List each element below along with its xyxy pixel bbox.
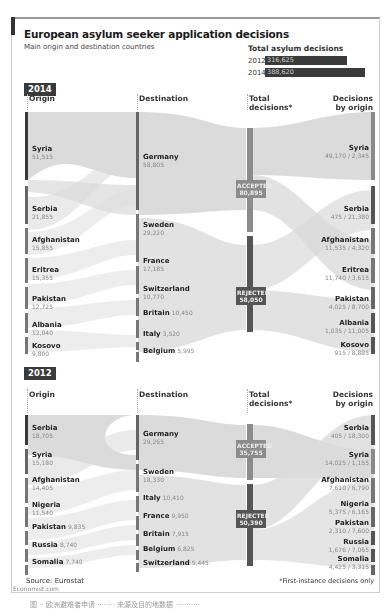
year-badge-2012: 2012	[24, 367, 56, 380]
col-total: Totaldecisions*	[249, 94, 292, 112]
origin-label: Eritrea15,355	[32, 266, 59, 282]
col-by-origin-l1: Decisions	[333, 94, 373, 103]
destination-label: France17,185	[143, 257, 169, 273]
divider	[247, 389, 248, 413]
origin-label: Russia 8,740	[32, 541, 77, 549]
origin-label: Serbia21,855	[32, 205, 57, 221]
by-origin-label: Serbia405 / 18,300	[331, 424, 369, 440]
rejected-badge: REJECTED50,390	[236, 510, 266, 528]
destination-label: Belgium 6,825	[143, 545, 194, 553]
col-total-l1: Total	[249, 390, 270, 399]
by-origin-label: Afghanistan11,535 / 4,320	[321, 236, 369, 252]
origin-label: Pakistan12,725	[32, 295, 66, 311]
divider	[27, 94, 28, 110]
origin-label: Afghanistan14,405	[32, 476, 80, 492]
by-origin-label: Syria14,025 / 1,155	[325, 451, 369, 467]
by-origin-label: Russia1,676 / 7,065	[329, 538, 369, 554]
by-origin-label: Kosovo915 / 8,885	[335, 341, 369, 357]
origin-label: Afghanistan15,855	[32, 236, 80, 252]
destination-label: Belgium 5,995	[143, 347, 194, 355]
origin-label: Kosovo9,800	[32, 342, 60, 358]
col-total-l2: decisions*	[249, 399, 292, 408]
by-origin-label: Nigeria5,375 / 6,165	[329, 500, 369, 516]
origin-label: Pakistan 9,835	[32, 523, 85, 531]
col-by-origin-l2: by origin	[335, 103, 373, 112]
origin-label: Albania12,040	[32, 321, 62, 337]
destination-label: Italy 3,520	[143, 330, 180, 338]
accepted-badge: ACCEPTED80,895	[236, 180, 266, 198]
col-origin: Origin	[29, 94, 55, 103]
col-origin: Origin	[29, 390, 55, 399]
divider	[137, 389, 138, 413]
rejected-badge: REJECTED58,050	[236, 287, 266, 305]
divider	[137, 94, 138, 110]
by-origin-label: Albania1,035 / 11,005	[325, 319, 369, 335]
credit: Economist.com	[13, 585, 59, 592]
divider	[27, 389, 28, 413]
origin-label: Serbia18,705	[32, 424, 57, 440]
by-origin-label: Afghanistan7,610 / 6,790	[321, 476, 369, 492]
destination-label: Italy 10,410	[143, 494, 184, 502]
destination-label: Switzerland 5,445	[143, 559, 209, 567]
destination-label: Britain 10,450	[143, 309, 193, 317]
divider	[247, 94, 248, 110]
figure-caption: 图 ·· 欧洲避难者申请 ········ 来源及目的地数据 ·········…	[30, 599, 200, 609]
col-total-l2: decisions*	[249, 103, 292, 112]
col-by-origin-l2: by origin	[335, 399, 373, 408]
by-origin-label: Pakistan2,310 / 7,600	[329, 519, 369, 535]
by-origin-label: Pakistan4,025 / 8,700	[329, 295, 369, 311]
col-destination: Destination	[139, 390, 188, 399]
by-origin-label: Somalia4,425 / 3,315	[329, 555, 369, 571]
origin-label: Nigeria11,540	[32, 501, 61, 517]
by-origin-label: Serbia475 / 21,380	[331, 205, 369, 221]
by-origin-label: Eritrea11,740 / 3,615	[325, 266, 369, 282]
destination-label: Britain 7,915	[143, 530, 189, 538]
by-origin-label: Syria49,170 / 2,345	[325, 144, 369, 160]
destination-label: Sweden18,330	[143, 468, 174, 484]
origin-label: Syria51,515	[32, 145, 53, 161]
origin-label: Somalia 7,740	[32, 558, 83, 566]
col-total: Totaldecisions*	[249, 390, 292, 408]
col-total-l1: Total	[249, 94, 270, 103]
destination-label: Germany58,805	[143, 153, 179, 169]
col-by-origin-l1: Decisions	[333, 390, 373, 399]
destination-label: Germany29,265	[143, 430, 179, 446]
accepted-badge: ACCEPTED35,755	[236, 440, 266, 458]
footnote: *First-instance decisions only	[279, 577, 374, 585]
origin-label: Syria15,180	[32, 451, 53, 467]
destination-label: Switzerland10,770	[143, 285, 190, 301]
destination-label: Sweden29,220	[143, 221, 174, 237]
source-note: Source: Eurostat	[26, 577, 84, 585]
col-destination: Destination	[139, 94, 188, 103]
col-by-origin: Decisionsby origin	[333, 390, 373, 408]
destination-label: France 9,950	[143, 512, 189, 520]
col-by-origin: Decisionsby origin	[333, 94, 373, 112]
